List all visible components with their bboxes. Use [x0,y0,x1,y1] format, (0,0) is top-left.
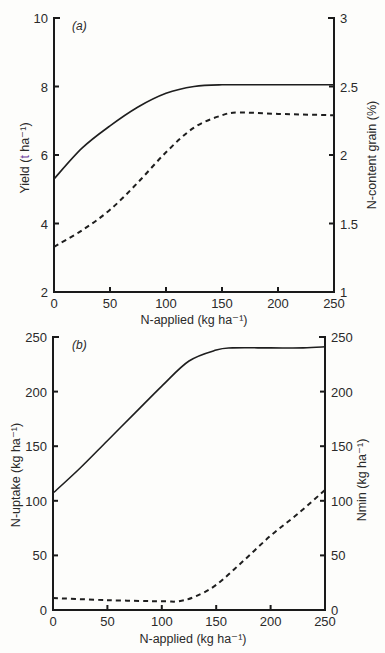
left-y-tick-label: 2 [41,285,48,300]
right-y-tick-label: 3 [340,11,347,26]
panel-b-axes-frame [53,337,325,610]
left-y-tick-label: 100 [25,494,47,509]
x-tick-label: 100 [155,296,177,311]
left-y-tick-label: 0 [40,603,47,618]
chart-panel-b: 0501001502002500501001502002500501001502… [9,330,369,646]
nmin-line [53,490,325,602]
left-y-tick-label: 200 [25,385,47,400]
right-y-tick-label: 1 [340,285,347,300]
right-y-tick-label: 50 [331,548,345,563]
n-uptake-axis-title: N-uptake (kg ha⁻¹) [9,423,23,527]
right-y-tick-label: 100 [331,494,353,509]
yield-line [54,85,334,179]
left-y-tick-label: 6 [41,148,48,163]
x-tick-label: 100 [151,614,173,629]
n-content-grain-axis-title: N-content grain (%) [365,101,379,209]
left-y-tick-label: 250 [25,330,47,345]
chart-panel-a: 05010015020025024681011.522.53 (a) Yield… [18,11,379,327]
right-y-tick-label: 200 [331,385,353,400]
panel-a-axes-frame [54,18,334,292]
x-tick-label: 200 [267,296,289,311]
x-tick-label: 150 [205,614,227,629]
panel-a-x-axis-title: N-applied (kg ha⁻¹) [140,313,247,327]
left-y-tick-label: 150 [25,439,47,454]
left-y-tick-label: 10 [34,11,48,26]
yield-axis-title: Yield (t ha⁻¹) [18,122,32,193]
x-tick-label: 0 [50,296,57,311]
panel-b-label: (b) [72,338,87,352]
left-y-tick-label: 4 [41,217,48,232]
panel-b-ticks: 0501001502002500501001502002500501001502… [25,330,352,629]
right-y-tick-label: 0 [331,603,338,618]
n-content-grain-line [54,112,334,246]
right-y-tick-label: 2 [340,148,347,163]
right-y-tick-label: 250 [331,330,353,345]
x-tick-label: 50 [103,296,117,311]
panel-a-ticks: 05010015020025024681011.522.53 [34,11,359,311]
right-y-tick-label: 150 [331,439,353,454]
n-uptake-line [53,347,325,493]
left-y-tick-label: 8 [41,80,48,95]
x-tick-label: 200 [260,614,282,629]
right-y-tick-label: 2.5 [340,80,358,95]
right-y-tick-label: 1.5 [340,217,358,232]
figure: 05010015020025024681011.522.53 (a) Yield… [0,0,385,653]
x-tick-label: 0 [49,614,56,629]
left-y-tick-label: 50 [33,548,47,563]
panel-b-x-axis-title: N-applied (kg ha⁻¹) [139,632,246,646]
x-tick-label: 50 [100,614,114,629]
nmin-axis-title: Nmin (kg ha⁻¹) [355,439,369,522]
panel-a-label: (a) [72,19,87,33]
x-tick-label: 150 [211,296,233,311]
